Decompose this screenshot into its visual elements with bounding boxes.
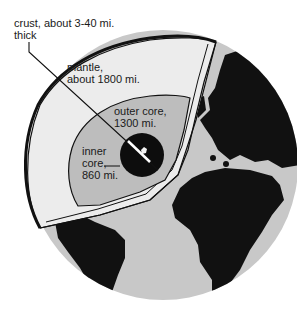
mantle-label-line1: mantle, (67, 61, 140, 73)
inner-core-label-line3: 860 mi. (82, 169, 118, 181)
crust-label-line1: crust, about 3-40 mi. (14, 17, 114, 29)
mantle-label-line2: about 1800 mi. (67, 73, 140, 85)
inner-core-label: inner core, 860 mi. (82, 145, 118, 181)
crust-label: crust, about 3-40 mi. thick (14, 17, 114, 41)
mantle-label: mantle, about 1800 mi. (67, 61, 140, 85)
outer-core-label-line2: 1300 mi. (114, 117, 167, 129)
inner-core-label-line1: inner (82, 145, 118, 157)
crust-label-line2: thick (14, 29, 114, 41)
inner-core-label-line2: core, (82, 157, 118, 169)
earth-cutaway-diagram (0, 0, 297, 310)
outer-core-label: outer core, 1300 mi. (114, 105, 167, 129)
outer-core-label-line1: outer core, (114, 105, 167, 117)
